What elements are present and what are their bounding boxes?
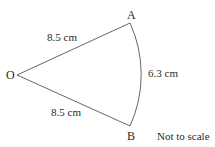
radius-OA-label: 8.5 cm (47, 31, 77, 43)
point-label-O: O (6, 68, 15, 82)
point-label-A: A (127, 8, 136, 22)
scale-note: Not to scale (157, 130, 210, 142)
arc-AB (130, 23, 141, 126)
radius-OB (17, 75, 130, 126)
point-label-B: B (127, 129, 135, 143)
radius-OB-label: 8.5 cm (51, 106, 81, 118)
sector-diagram: O A B 8.5 cm 8.5 cm 6.3 cm Not to scale (0, 0, 215, 147)
arc-length-label: 6.3 cm (148, 67, 178, 79)
